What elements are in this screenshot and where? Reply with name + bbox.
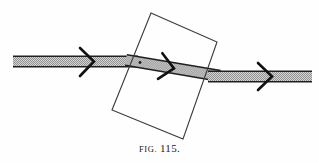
emergent-beam-band	[208, 71, 312, 82]
figure-caption-prefix: FIG.	[139, 144, 157, 154]
figure-caption: FIG. 115.	[0, 139, 319, 155]
incident-beam-band	[13, 56, 138, 67]
figure-caption-number: 115.	[160, 142, 180, 154]
entry-point-dot	[139, 61, 142, 64]
figure-container: FIG. 115.	[0, 0, 319, 163]
